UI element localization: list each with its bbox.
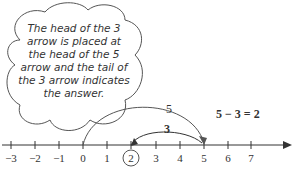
- tick-label: 3: [153, 152, 159, 164]
- tick-label-circled: 2: [128, 152, 134, 164]
- tick-label: −1: [53, 152, 65, 164]
- tick-label: 7: [248, 152, 254, 164]
- tick-label: −2: [29, 152, 41, 164]
- tick-label: −3: [5, 152, 17, 164]
- tick-label: 5: [201, 152, 207, 164]
- arrow-5-label: 5: [166, 102, 172, 117]
- tick-label: 6: [225, 152, 231, 164]
- tick-label: 1: [104, 152, 110, 164]
- tick-label: 0: [80, 152, 86, 164]
- arrow-3-label: 3: [164, 122, 170, 137]
- callout-text: The head of the 3 arrow is placed at the…: [18, 22, 130, 100]
- tick-label: 4: [177, 152, 183, 164]
- equation: 5 − 3 = 2: [216, 107, 260, 122]
